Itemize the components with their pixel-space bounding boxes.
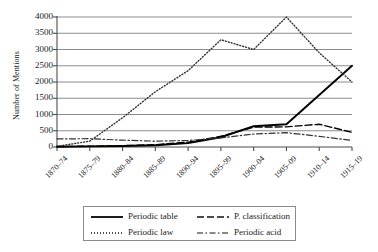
legend-label: Periodic law <box>128 228 173 237</box>
legend-label: P. classification <box>234 212 290 221</box>
legend-item: P. classification <box>196 209 290 224</box>
legend-key-dashed-icon <box>196 212 230 222</box>
legend-item: Periodic acid <box>196 225 281 240</box>
legend-key-solid-icon <box>90 212 124 222</box>
legend-item: Periodic table <box>90 209 178 224</box>
legend-item: Periodic law <box>90 225 173 240</box>
legend-label: Periodic acid <box>234 228 281 237</box>
legend-label: Periodic table <box>128 212 178 221</box>
line-chart: Number of Mentions 050010001500200025003… <box>0 0 378 252</box>
legend-key-dotted-icon <box>90 228 124 238</box>
chart-legend: Periodic tableP. classificationPeriodic … <box>83 206 296 241</box>
legend-key-dashdot-icon <box>196 228 230 238</box>
